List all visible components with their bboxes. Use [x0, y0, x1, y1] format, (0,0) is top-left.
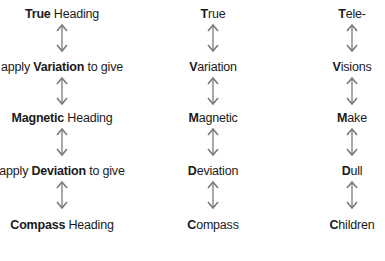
label-suffix: to give [86, 164, 125, 178]
label-suffix: to give [84, 60, 123, 74]
double-arrow-icon [55, 127, 69, 157]
label-suffix: ull [350, 164, 362, 178]
label-bold: V [333, 60, 341, 74]
label-bold: True [25, 7, 51, 21]
label-suffix: isions [341, 60, 372, 74]
label-terms-2: Magnetic [188, 111, 237, 125]
label-mnemonic-2: Make [337, 111, 367, 125]
label-suffix: ariation [197, 60, 236, 74]
label-bold: M [337, 111, 347, 125]
label-terms-3: Deviation [188, 164, 238, 178]
label-explanation-1: apply Variation to give [1, 60, 123, 74]
label-prefix: apply [0, 164, 31, 178]
label-suffix: Heading [65, 218, 113, 232]
label-suffix: ele- [346, 7, 366, 21]
double-arrow-icon [206, 127, 220, 157]
double-arrow-icon [345, 76, 359, 106]
double-arrow-icon [206, 76, 220, 106]
label-suffix: ompass [196, 218, 239, 232]
label-bold: C [187, 218, 196, 232]
label-explanation-3: apply Deviation to give [0, 164, 125, 178]
double-arrow-icon [206, 180, 220, 210]
double-arrow-icon [345, 180, 359, 210]
label-bold: D [188, 164, 197, 178]
label-suffix: Heading [51, 7, 99, 21]
label-bold: D [342, 164, 351, 178]
label-terms-4: Compass [187, 218, 238, 232]
label-mnemonic-1: Visions [333, 60, 372, 74]
label-bold: C [330, 218, 339, 232]
double-arrow-icon [206, 23, 220, 53]
label-bold: Variation [33, 60, 84, 74]
label-suffix: rue [208, 7, 225, 21]
label-mnemonic-4: Children [330, 218, 375, 232]
label-mnemonic-3: Dull [342, 164, 363, 178]
label-terms-1: Variation [189, 60, 237, 74]
label-explanation-2: Magnetic Heading [11, 111, 112, 125]
double-arrow-icon [55, 76, 69, 106]
double-arrow-icon [55, 180, 69, 210]
label-bold: Deviation [31, 164, 85, 178]
label-suffix: eviation [197, 164, 239, 178]
label-bold: Magnetic [11, 111, 64, 125]
label-prefix: apply [1, 60, 33, 74]
label-bold: V [189, 60, 197, 74]
label-suffix: hildren [338, 218, 374, 232]
double-arrow-icon [345, 127, 359, 157]
label-explanation-4: Compass Heading [10, 218, 113, 232]
label-suffix: agnetic [199, 111, 238, 125]
label-suffix: ake [347, 111, 367, 125]
label-mnemonic-0: Tele- [338, 7, 365, 21]
label-terms-0: True [201, 7, 226, 21]
label-explanation-0: True Heading [25, 7, 99, 21]
label-bold: M [188, 111, 198, 125]
double-arrow-icon [55, 23, 69, 53]
double-arrow-icon [345, 23, 359, 53]
label-suffix: Heading [64, 111, 112, 125]
label-bold: Compass [10, 218, 65, 232]
